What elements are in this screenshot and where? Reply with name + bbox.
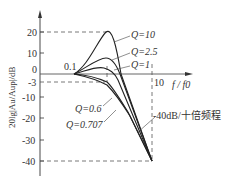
y-tick-0: 0: [32, 64, 37, 75]
curve-q0_707: [74, 74, 152, 161]
x-axis-arrow-icon: [185, 72, 193, 76]
bandpass-response-chart: 20 10 0 -3 -10 -20 -30 -40 0.1 10 f / f0…: [0, 0, 231, 186]
y-axis-label: 20lg|Au/Aup|/dB: [7, 66, 17, 128]
y-axis-arrow-icon: [38, 10, 42, 18]
y-tick-m3: -3: [28, 77, 36, 88]
y-tick-m20: -20: [22, 113, 35, 124]
curve-q0_6: [74, 74, 152, 161]
y-tick-m40: -40: [22, 156, 35, 167]
label-q0-6: Q=0.6: [75, 103, 101, 114]
y-tick-m10: -10: [22, 92, 35, 103]
y-tick-10: 10: [27, 48, 37, 59]
y-tick-m30: -30: [22, 135, 35, 146]
label-q0-707: Q=0.707: [66, 119, 103, 130]
y-tick-20: 20: [27, 27, 37, 38]
x-tick-0-1: 0.1: [64, 61, 77, 72]
label-slope: -40dB/十倍频程: [153, 109, 221, 121]
x-axis-label: f / f0: [172, 79, 190, 90]
label-q2-5: Q=2.5: [131, 46, 157, 57]
label-q10: Q=10: [131, 29, 155, 40]
y-ticks: [40, 32, 44, 161]
x-tick-10: 10: [154, 77, 164, 88]
label-q1: Q=1: [131, 59, 150, 70]
curve-q1: [74, 68, 152, 161]
